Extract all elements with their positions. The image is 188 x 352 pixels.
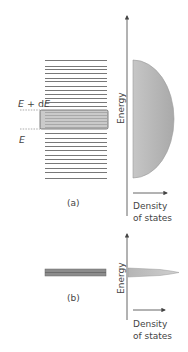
dos-axis-label-b-line1: Density bbox=[133, 319, 168, 329]
dos-spike bbox=[128, 268, 179, 277]
dos-axis-label-a-line1: Density bbox=[133, 201, 168, 211]
energy-axis-label-a: Energy bbox=[116, 92, 126, 124]
highlight-band bbox=[40, 110, 108, 129]
panel-b: Energy Density of states (b) bbox=[45, 234, 179, 341]
upper-energy-label: E + dE bbox=[18, 98, 50, 109]
dos-axis-label-b-line2: of states bbox=[133, 331, 172, 341]
density-of-states-diagram: E + dE E Energy Density of states (a) En… bbox=[0, 0, 188, 352]
dos-axis-label-a-line2: of states bbox=[133, 213, 172, 223]
dos-semi-ellipse bbox=[133, 60, 174, 178]
energy-axis-label-b: Energy bbox=[116, 262, 126, 294]
panel-b-label: (b) bbox=[67, 293, 80, 303]
panel-a-label: (a) bbox=[67, 198, 80, 208]
panel-a: E + dE E Energy Density of states (a) bbox=[18, 16, 174, 223]
lower-energy-label: E bbox=[19, 134, 25, 145]
